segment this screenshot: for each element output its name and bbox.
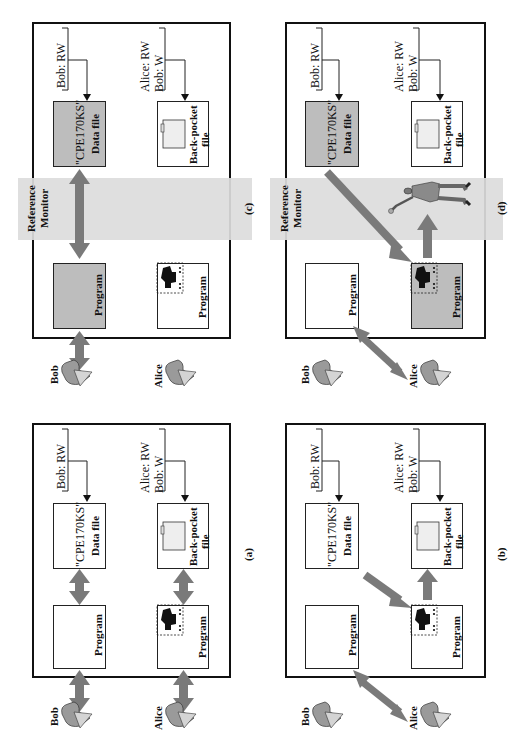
alice-face-icon xyxy=(0,0,518,740)
panel-caption: (b) xyxy=(495,548,507,561)
panel-b: Bob: RW Alice: RW Bob: W "CPE170KS" Data… xyxy=(0,0,518,740)
